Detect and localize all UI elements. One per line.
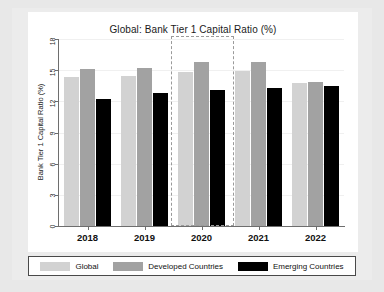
bar-2018-global: [64, 77, 79, 226]
chart-legend: GlobalDeveloped CountriesEmerging Countr…: [28, 256, 356, 276]
bar-group-2018: 2018: [59, 39, 116, 226]
figure-card: Global: Bank Tier 1 Capital Ratio (%) 20…: [12, 8, 372, 280]
x-tick-label-2020: 2020: [173, 232, 230, 243]
bar-2021-emerging-countries: [267, 88, 282, 226]
x-tick-label-2019: 2019: [116, 232, 173, 243]
legend-label: Global: [75, 262, 98, 271]
figure-root: Global: Bank Tier 1 Capital Ratio (%) 20…: [0, 0, 384, 292]
bar-2019-developed-countries: [137, 68, 152, 226]
bar-groups: 20182019202020212022: [59, 39, 344, 226]
bar-2022-emerging-countries: [324, 86, 339, 226]
y-tick-label: 9: [50, 131, 57, 135]
legend-item-emerging-countries[interactable]: Emerging Countries: [238, 262, 344, 271]
y-tick-label: 6: [50, 162, 57, 166]
y-tick-label: 3: [50, 193, 57, 197]
bar-2020-developed-countries: [194, 62, 209, 226]
bar-2020-global: [178, 72, 193, 226]
legend-swatch-icon: [113, 262, 143, 271]
y-tick-label: 12: [50, 100, 57, 108]
chart-panel: Global: Bank Tier 1 Capital Ratio (%) 20…: [28, 12, 358, 252]
plot-area: 20182019202020212022: [59, 39, 344, 226]
legend-label: Emerging Countries: [273, 262, 344, 271]
bar-2019-global: [121, 76, 136, 226]
bar-2021-global: [235, 71, 250, 226]
y-axis-label: Bank Tier 1 Capital Ratio (%): [36, 84, 45, 181]
bar-2022-global: [292, 83, 307, 226]
y-tick-label: 0: [50, 225, 57, 229]
bar-2018-emerging-countries: [96, 99, 111, 226]
bar-group-2022: 2022: [287, 39, 344, 226]
legend-item-developed-countries[interactable]: Developed Countries: [113, 262, 223, 271]
bar-group-2020: 2020: [173, 39, 230, 226]
bar-2019-emerging-countries: [153, 93, 168, 226]
chart-title: Global: Bank Tier 1 Capital Ratio (%): [28, 24, 358, 35]
bar-2018-developed-countries: [80, 69, 95, 226]
x-tick-label-2021: 2021: [230, 232, 287, 243]
bar-2022-developed-countries: [308, 82, 323, 226]
legend-label: Developed Countries: [148, 262, 223, 271]
x-tick-label-2022: 2022: [287, 232, 344, 243]
bar-2021-developed-countries: [251, 62, 266, 226]
plot-wrapper: 20182019202020212022 0369121518: [59, 39, 344, 226]
y-tick-label: 15: [50, 69, 57, 77]
y-tick-label: 18: [50, 38, 57, 46]
bar-group-2021: 2021: [230, 39, 287, 226]
bar-group-2019: 2019: [116, 39, 173, 226]
x-tick-label-2018: 2018: [59, 232, 116, 243]
x-axis-line: [58, 226, 345, 227]
legend-swatch-icon: [40, 262, 70, 271]
legend-swatch-icon: [238, 262, 268, 271]
bar-2020-emerging-countries: [210, 90, 225, 226]
legend-item-global[interactable]: Global: [40, 262, 98, 271]
